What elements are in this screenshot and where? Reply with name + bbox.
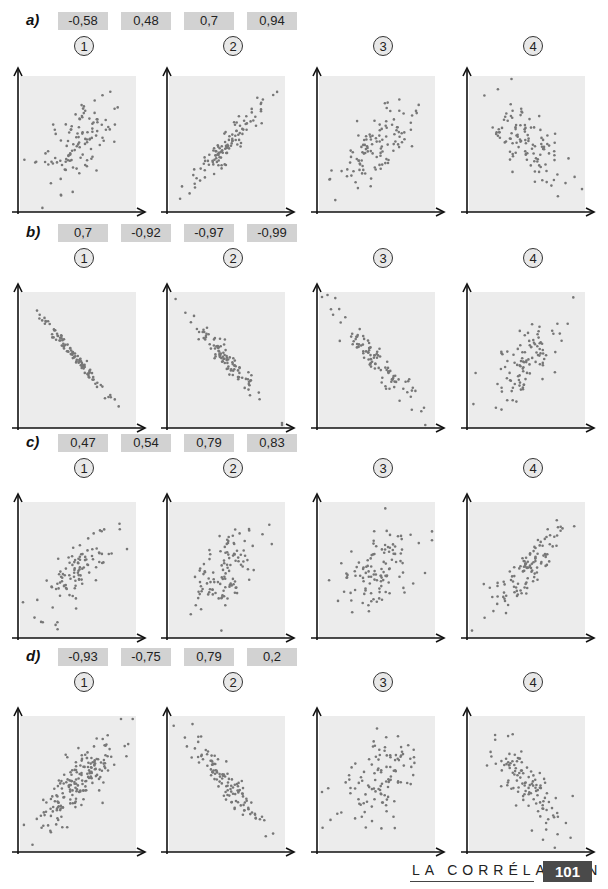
scatter-plot — [461, 708, 595, 858]
scatter-plot — [161, 284, 295, 434]
correlation-value-box: 0,2 — [247, 648, 297, 666]
correlation-value-box: -0,58 — [58, 12, 108, 30]
scatter-plot — [12, 284, 146, 434]
plot-area — [319, 76, 435, 212]
plot-number-badge: 1 — [74, 248, 94, 268]
page-number: 101 — [543, 861, 592, 882]
scatter-plot — [311, 284, 445, 434]
plot-number-badge: 3 — [373, 36, 393, 56]
exercise-label: a) — [26, 11, 39, 28]
plot-number-badge: 1 — [74, 458, 94, 478]
plot-number-badge: 2 — [223, 36, 243, 56]
scatter-plot — [311, 68, 445, 218]
scatter-plot — [161, 708, 295, 858]
plot-number-badge: 3 — [373, 458, 393, 478]
plot-number-badge: 4 — [523, 248, 543, 268]
scatter-plot — [161, 68, 295, 218]
correlation-value-box: 0,7 — [184, 12, 234, 30]
correlation-value-box: 0,48 — [121, 12, 171, 30]
scatter-plot — [461, 68, 595, 218]
plot-area — [20, 716, 136, 852]
correlation-value-box: -0,99 — [247, 224, 297, 242]
scatter-plot — [311, 708, 445, 858]
exercise-label: c) — [26, 433, 39, 450]
correlation-value-box: 0,7 — [58, 224, 108, 242]
plot-number-badge: 1 — [74, 36, 94, 56]
plot-area — [469, 502, 585, 638]
plot-number-badge: 4 — [523, 672, 543, 692]
exercise-label: b) — [26, 223, 40, 240]
plot-number-badge: 2 — [223, 458, 243, 478]
plot-number-badge: 3 — [373, 248, 393, 268]
correlation-value-box: -0,75 — [121, 648, 171, 666]
plot-area — [469, 716, 585, 852]
plot-area — [469, 76, 585, 212]
correlation-value-box: 0,79 — [184, 648, 234, 666]
footer-underline — [410, 881, 534, 882]
plot-area — [319, 502, 435, 638]
plot-area — [319, 716, 435, 852]
scatter-plot — [12, 68, 146, 218]
scatter-plot — [311, 494, 445, 644]
scatter-plot — [12, 708, 146, 858]
plot-area — [169, 502, 285, 638]
scatter-plot — [461, 284, 595, 434]
correlation-value-box: 0,54 — [121, 434, 171, 452]
plot-area — [319, 292, 435, 428]
plot-area — [169, 716, 285, 852]
correlation-value-box: 0,79 — [184, 434, 234, 452]
correlation-value-box: 0,83 — [247, 434, 297, 452]
plot-number-badge: 2 — [223, 672, 243, 692]
correlation-value-box: -0,97 — [184, 224, 234, 242]
scatter-plot — [12, 494, 146, 644]
scatter-plot — [461, 494, 595, 644]
plot-number-badge: 4 — [523, 458, 543, 478]
plot-number-badge: 3 — [373, 672, 393, 692]
correlation-value-box: 0,94 — [247, 12, 297, 30]
plot-number-badge: 4 — [523, 36, 543, 56]
plot-number-badge: 2 — [223, 248, 243, 268]
correlation-value-box: -0,92 — [121, 224, 171, 242]
scatter-plot — [161, 494, 295, 644]
exercise-label: d) — [26, 647, 40, 664]
correlation-value-box: 0,47 — [58, 434, 108, 452]
plot-number-badge: 1 — [74, 672, 94, 692]
correlation-value-box: -0,93 — [58, 648, 108, 666]
